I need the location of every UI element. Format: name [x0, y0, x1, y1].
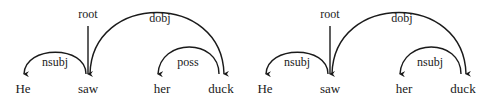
word-duck: duck — [450, 81, 476, 96]
arc-label-nsubj: nsubj — [284, 55, 310, 69]
word-duck: duck — [208, 81, 234, 96]
arc-label-root: root — [78, 7, 98, 21]
dependency-parse-figure: root nsubj dobj poss He saw her duck roo… — [0, 0, 485, 101]
word-he: He — [257, 81, 272, 96]
arc-label-nsubj-2: nsubj — [417, 55, 443, 69]
word-he: He — [15, 81, 30, 96]
arc-label-nsubj: nsubj — [42, 55, 68, 69]
word-her: her — [396, 81, 413, 96]
arc-label-root: root — [320, 7, 340, 21]
dependency-tree-right: root nsubj dobj nsubj He saw her duck — [257, 7, 476, 96]
word-saw: saw — [320, 81, 341, 96]
word-her: her — [154, 81, 171, 96]
dependency-tree-left: root nsubj dobj poss He saw her duck — [15, 7, 234, 96]
arc-label-poss: poss — [177, 55, 199, 69]
arc-label-dobj: dobj — [391, 11, 412, 25]
arc-label-dobj: dobj — [149, 11, 170, 25]
word-saw: saw — [78, 81, 99, 96]
